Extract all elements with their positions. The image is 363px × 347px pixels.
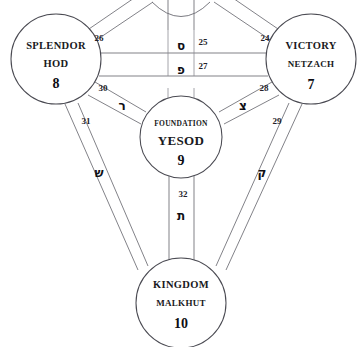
- hebrew-letter-resh-path-30: ר: [118, 99, 125, 113]
- tree-of-life-diagram: SPLENDOR HOD 8 VICTORY NETZACH 7 FOUNDAT…: [0, 0, 363, 347]
- hebrew-letter-tav-path-32: ת: [177, 209, 185, 223]
- sephira-malkhut[interactable]: KINGDOM MALKHUT 10: [136, 258, 226, 347]
- sephira-netzach-number: 7: [308, 77, 315, 92]
- path-number-32: 32: [179, 189, 189, 199]
- path-number-30: 30: [99, 83, 109, 93]
- sephira-hod[interactable]: SPLENDOR HOD 8: [11, 14, 101, 104]
- path-31: [65, 103, 148, 270]
- path-number-29: 29: [273, 116, 283, 126]
- hebrew-letter-shin-path-31: ש: [94, 166, 103, 180]
- hebrew-letter-samekh-path-25: ס: [177, 39, 185, 53]
- path-24: [214, 0, 281, 41]
- sephira-hod-name-english: SPLENDOR: [26, 40, 86, 51]
- hebrew-letter-tsadi-path-28: צ: [239, 99, 247, 113]
- path-number-27: 27: [199, 61, 209, 71]
- path-29: [216, 103, 302, 270]
- sephira-malkhut-name-hebrew: MALKHUT: [156, 298, 206, 308]
- sephira-netzach-name-hebrew: NETZACH: [288, 59, 335, 69]
- sephira-malkhut-number: 10: [174, 316, 188, 331]
- sephira-yesod-name-english: FOUNDATION: [154, 119, 208, 128]
- hebrew-letter-qof-path-29: ק: [258, 166, 267, 180]
- sephira-hod-name-hebrew: HOD: [44, 58, 69, 69]
- sephira-netzach-name-english: VICTORY: [285, 40, 336, 51]
- sephira-malkhut-name-english: KINGDOM: [153, 279, 209, 290]
- path-number-26: 26: [95, 33, 105, 43]
- sephira-hod-number: 8: [53, 76, 60, 91]
- tiphereth-arc: [152, 2, 210, 17]
- path-number-25: 25: [199, 37, 209, 47]
- sephira-yesod-name-hebrew: YESOD: [158, 133, 204, 148]
- sephira-yesod[interactable]: FOUNDATION YESOD 9: [140, 96, 222, 178]
- tree-of-life-canvas: SPLENDOR HOD 8 VICTORY NETZACH 7 FOUNDAT…: [0, 0, 363, 347]
- path-number-28: 28: [260, 83, 270, 93]
- hebrew-letter-pe-path-27: פ: [177, 63, 185, 77]
- sephira-netzach[interactable]: VICTORY NETZACH 7: [266, 14, 356, 104]
- path-number-31: 31: [82, 116, 92, 126]
- path-30: [88, 82, 146, 124]
- sephira-yesod-number: 9: [178, 153, 185, 168]
- path-28: [219, 82, 279, 124]
- path-number-24: 24: [261, 33, 271, 43]
